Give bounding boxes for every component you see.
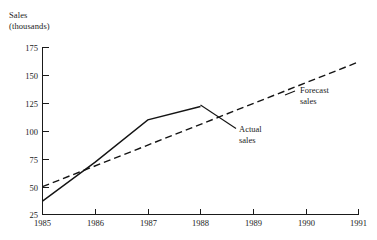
forecast-sales-leader-line [285,91,295,95]
y-tick-label-75: 75 [30,155,39,165]
x-tick-label-1989: 1989 [245,218,262,228]
y-tick-label-125: 125 [25,99,38,109]
y-tick-label-150: 150 [25,71,38,81]
x-tick-label-1985: 1985 [34,218,51,228]
sales-forecast-chart: Sales (thousands) 175 150 125 100 75 50 … [0,0,377,240]
x-tick-label-1988: 1988 [192,218,209,228]
y-tick-label-175: 175 [25,43,38,53]
annotation-actual-sales-line2: sales [239,135,256,145]
x-tick-label-1991: 1991 [350,218,367,228]
actual-sales-leader-line [201,105,237,129]
x-tick-label-1986: 1986 [87,218,104,228]
y-tick-label-50: 50 [30,183,39,193]
x-tick-label-1990: 1990 [298,218,315,228]
series-line-actual-sales [43,107,201,202]
x-tick-marks [96,209,359,215]
series-line-forecast-sales [43,62,359,187]
y-tick-marks [43,48,50,188]
x-tick-label-1987: 1987 [140,218,157,228]
annotation-actual-sales-line1: Actual [239,124,262,134]
y-tick-label-100: 100 [25,127,38,137]
annotation-forecast-sales-line1: Forecast [300,85,329,95]
annotation-forecast-sales-line2: sales [300,96,317,106]
plot-area: 175 150 125 100 75 50 25 1985 1986 1987 … [0,0,377,240]
